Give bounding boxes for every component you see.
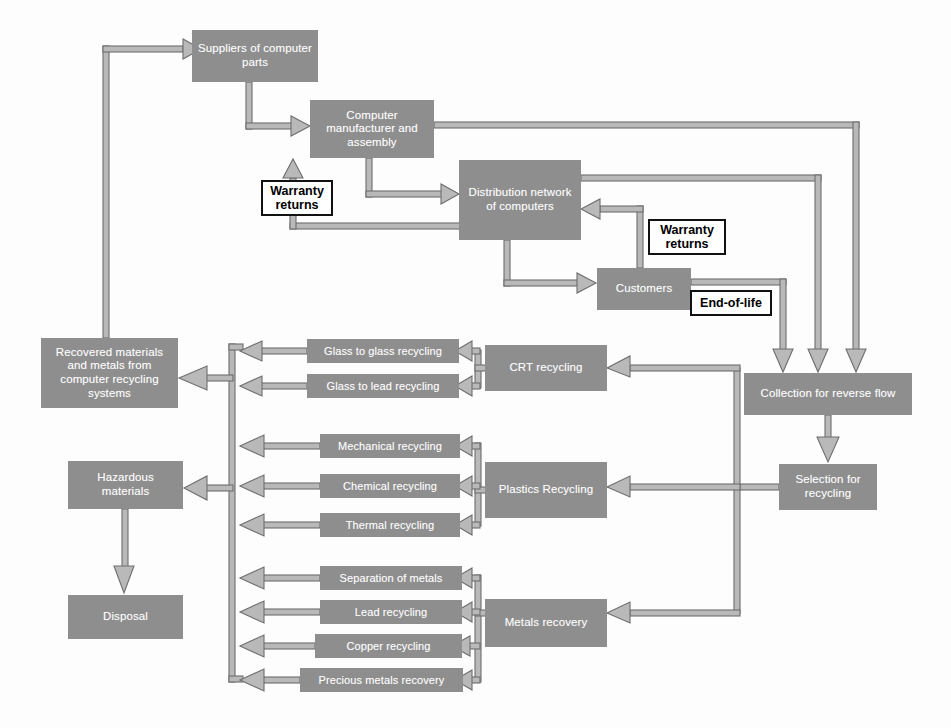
- node-separation-of-metals[interactable]: Separation of metals: [320, 566, 462, 590]
- node-suppliers[interactable]: Suppliers of computer parts: [192, 30, 318, 82]
- node-metals-recovery[interactable]: Metals recovery: [485, 599, 607, 647]
- label-warranty-returns-distribution: Warranty returns: [648, 219, 726, 255]
- flow-crt-to-glass-processes: [455, 341, 487, 396]
- node-mechanical-recycling[interactable]: Mechanical recycling: [320, 434, 460, 458]
- diagram-canvas: .pipe { fill:#b9b9b9; stroke:#6e6e6e; st…: [0, 0, 951, 728]
- node-disposal[interactable]: Disposal: [68, 595, 183, 639]
- node-glass-to-glass[interactable]: Glass to glass recycling: [307, 339, 459, 363]
- flow-customers-to-distribution-warranty: [581, 199, 643, 268]
- node-customers[interactable]: Customers: [597, 268, 691, 310]
- node-chemical-recycling[interactable]: Chemical recycling: [320, 474, 460, 498]
- node-selection[interactable]: Selection for recycling: [779, 464, 877, 510]
- node-copper-recycling[interactable]: Copper recycling: [315, 634, 462, 658]
- node-thermal-recycling[interactable]: Thermal recycling: [320, 513, 460, 537]
- collector-bar: [229, 344, 243, 682]
- flow-distribution-to-customers: [504, 240, 596, 293]
- label-warranty-returns-manufacturer: Warranty returns: [261, 180, 333, 216]
- flow-hazardous-to-disposal: [114, 509, 134, 593]
- flow-collection-to-selection: [817, 415, 839, 462]
- flow-collector-to-recovered: [179, 366, 233, 390]
- node-manufacturer[interactable]: Computer manufacturer and assembly: [310, 100, 434, 158]
- node-glass-to-lead[interactable]: Glass to lead recycling: [307, 374, 459, 398]
- flow-manufacturer-to-distribution: [366, 158, 459, 204]
- node-lead-recycling[interactable]: Lead recycling: [320, 600, 462, 624]
- flow-suppliers-to-manufacturer: [246, 82, 310, 136]
- node-collection[interactable]: Collection for reverse flow: [744, 373, 912, 415]
- node-precious-metals-recovery[interactable]: Precious metals recovery: [300, 668, 463, 692]
- label-end-of-life: End-of-life: [690, 290, 772, 316]
- node-crt-recycling[interactable]: CRT recycling: [485, 345, 607, 391]
- node-recovered-materials[interactable]: Recovered materials and metals from comp…: [41, 338, 178, 408]
- node-distribution[interactable]: Distribution network of computers: [459, 160, 581, 240]
- node-plastics-recycling[interactable]: Plastics Recycling: [485, 462, 607, 518]
- flow-recovered-to-suppliers: [103, 39, 201, 338]
- node-hazardous-materials[interactable]: Hazardous materials: [68, 461, 183, 509]
- flow-collector-to-hazardous: [184, 476, 233, 500]
